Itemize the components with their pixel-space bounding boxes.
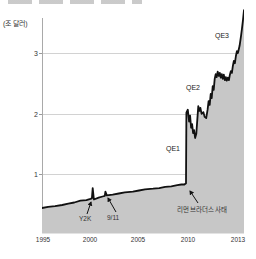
x-tick-label-2005: 2005 [126, 236, 150, 244]
fed-balance-sheet-chart: (조 달러) 3 2 1 1995 2000 2005 2010 2013 QE… [0, 0, 256, 259]
cropped-caption-text [8, 0, 142, 4]
y-axis-unit-label: (조 달러) [3, 19, 28, 29]
annotation-qe2: QE2 [186, 84, 200, 92]
area-fill [42, 10, 244, 233]
y-tick-label-1: 1 [24, 170, 38, 179]
annotation-9-11: 9/11 [107, 214, 119, 222]
y-tick-label-3: 3 [24, 49, 38, 58]
x-tick-label-2010: 2010 [176, 236, 200, 244]
x-tick-label-2013: 2013 [226, 236, 250, 244]
y-tick-label-2: 2 [24, 110, 38, 119]
balance-sheet-series [42, 5, 244, 234]
annotation-qe1: QE1 [166, 145, 180, 153]
x-tick-label-2000: 2000 [78, 236, 102, 244]
annotation-lehman: 리먼 브라더스 사태 [177, 206, 253, 214]
annotation-qe3: QE3 [215, 32, 229, 40]
annotation-y2k: Y2K [79, 215, 91, 223]
x-tick-label-1995: 1995 [31, 236, 55, 244]
